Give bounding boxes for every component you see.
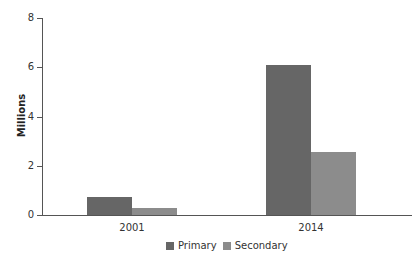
x-tick-label: 2014: [281, 222, 341, 233]
bar-secondary-2014: [311, 152, 356, 215]
y-tick-label: 0: [14, 210, 34, 220]
legend-label-primary: Primary: [178, 240, 217, 251]
legend-item-secondary: Secondary: [223, 240, 288, 251]
legend-swatch-primary: [166, 242, 174, 250]
legend-label-secondary: Secondary: [235, 240, 288, 251]
y-tick-label: 8: [14, 13, 34, 23]
legend-swatch-secondary: [223, 242, 231, 250]
y-tick-label: 4: [14, 112, 34, 122]
y-tick-mark: [37, 67, 42, 68]
bar-secondary-2001: [132, 208, 177, 215]
y-tick-mark: [37, 117, 42, 118]
legend-item-primary: Primary: [166, 240, 217, 251]
y-tick-mark: [37, 215, 42, 216]
y-tick-mark: [37, 166, 42, 167]
y-tick-label: 6: [14, 62, 34, 72]
y-tick-mark: [37, 18, 42, 19]
legend: Primary Secondary: [166, 240, 294, 251]
y-tick-label: 2: [14, 161, 34, 171]
bar-primary-2001: [87, 197, 132, 215]
y-axis-line: [42, 18, 43, 216]
x-axis-line: [42, 215, 412, 216]
bar-primary-2014: [266, 65, 311, 215]
x-tick-label: 2001: [102, 222, 162, 233]
